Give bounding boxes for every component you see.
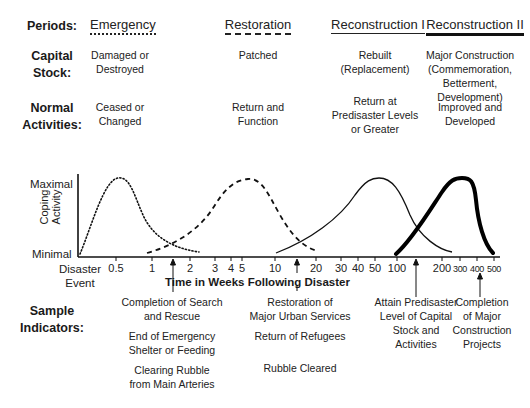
indicator-reconstruction-1: Attain Predisaster Level of Capital Stoc… bbox=[374, 295, 458, 351]
indicator-item: Attain Predisaster Rubble Cleared bbox=[240, 361, 360, 375]
indicator-item: End of Emergency Shelter or Feeding bbox=[112, 329, 232, 357]
indicator-item: Clearing Rubble from Main Arteries bbox=[112, 363, 232, 391]
indicator-restoration: Restoration of Major Urban Services Retu… bbox=[240, 295, 360, 375]
indicator-item: Return of Refugees bbox=[240, 329, 360, 343]
indicator-reconstruction-2: Completion of Major Construction Project… bbox=[452, 295, 512, 351]
indicator-arrows bbox=[171, 259, 483, 297]
indicator-emergency: Completion of Search and Rescue End of E… bbox=[112, 295, 232, 391]
indicator-item: Completion of Search and Rescue bbox=[112, 295, 232, 323]
curve-restoration bbox=[147, 179, 318, 253]
curve-emergency bbox=[80, 178, 199, 254]
indicator-item: Restoration of Major Urban Services bbox=[240, 295, 360, 323]
